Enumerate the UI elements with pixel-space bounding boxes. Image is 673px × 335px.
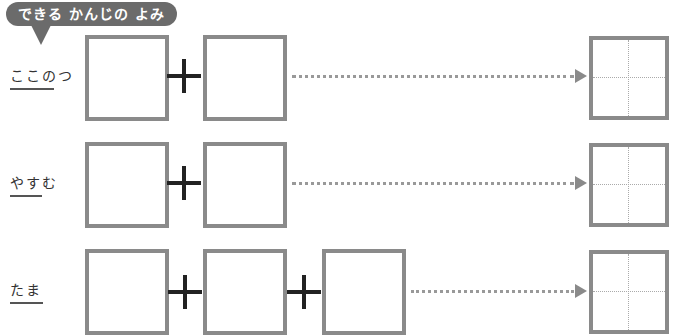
guide-line-vertical <box>628 40 629 116</box>
exercise-row-2: やすむ <box>0 142 673 226</box>
reading-underline <box>10 88 54 90</box>
guide-line-horizontal <box>593 184 665 185</box>
answer-kanji-box[interactable] <box>589 36 669 120</box>
kanji-part-box-2[interactable] <box>203 249 287 335</box>
guide-line-vertical <box>628 147 629 223</box>
plus-icon <box>167 166 201 200</box>
guide-line-vertical <box>628 254 629 330</box>
exercise-row-1: ここのつ <box>0 35 673 119</box>
plus-icon <box>167 59 201 93</box>
dotted-connector <box>411 290 574 293</box>
section-badge: できる かんじの よみ <box>6 2 177 26</box>
arrow-right-icon <box>575 284 587 298</box>
dotted-connector <box>292 182 574 185</box>
reading-label: やすむ <box>10 172 58 192</box>
kanji-part-box-2[interactable] <box>203 142 287 228</box>
reading-underline <box>10 195 42 197</box>
reading-label: たま <box>10 279 42 299</box>
reading-text: たま <box>10 282 42 298</box>
answer-kanji-box[interactable] <box>589 250 669 334</box>
kanji-part-box-2[interactable] <box>203 35 287 121</box>
arrow-right-icon <box>575 176 587 190</box>
kanji-part-box-1[interactable] <box>85 35 169 121</box>
kanji-part-box-3[interactable] <box>322 249 406 335</box>
kanji-part-box-1[interactable] <box>85 249 169 335</box>
plus-icon <box>168 275 202 309</box>
arrow-right-icon <box>575 69 587 83</box>
reading-label: ここのつ <box>10 65 74 85</box>
exercise-row-3: たま <box>0 249 673 333</box>
reading-text: ここのつ <box>10 68 74 84</box>
dotted-connector <box>292 75 574 78</box>
guide-line-horizontal <box>593 291 665 292</box>
reading-underline <box>10 302 43 304</box>
answer-kanji-box[interactable] <box>589 143 669 227</box>
guide-line-horizontal <box>593 77 665 78</box>
kanji-part-box-1[interactable] <box>85 142 169 228</box>
reading-text: やすむ <box>10 175 58 191</box>
plus-icon <box>287 275 321 309</box>
